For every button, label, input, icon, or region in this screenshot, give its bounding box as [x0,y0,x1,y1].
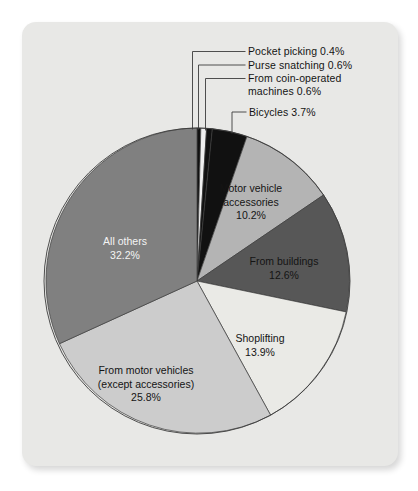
slice-label-line: 12.6% [222,269,346,283]
slice-label-line: Motor vehicle [188,182,314,196]
slice-label-line: All others [72,235,178,249]
callout-label-purse-snatching: Purse snatching 0.6% [248,59,352,72]
callout-label-coin-operated-line1: From coin-operated [248,72,341,85]
slice-label-from-motor-vehicles: From motor vehicles (except accessories)… [66,364,226,405]
slice-label-shoplifting: Shoplifting 13.9% [205,332,315,359]
slice-label-line: Shoplifting [205,332,315,346]
pie-chart: Pocket picking 0.4% Purse snatching 0.6%… [0,0,418,491]
leader-lines [193,52,247,134]
leader-line-bicycles [232,112,246,133]
callout-label-coin-operated-line2: machines 0.6% [248,85,321,98]
slice-label-all-others: All others 32.2% [72,235,178,262]
pie-chart-svg [0,0,418,491]
slice-label-line: From motor vehicles [66,364,226,378]
callout-label-bicycles: Bicycles 3.7% [249,106,316,119]
slice-label-line: 32.2% [72,249,178,263]
leader-line-coin-operated [206,79,246,131]
figure-stage: Pocket picking 0.4% Purse snatching 0.6%… [0,0,418,491]
slice-label-line: 13.9% [205,346,315,360]
slice-label-motor-vehicle-accessories: Motor vehicle accessories 10.2% [188,182,314,223]
slice-label-line: 25.8% [66,391,226,405]
leader-line-pocket-picking [193,52,246,130]
slice-label-line: accessories [188,196,314,210]
slice-label-line: 10.2% [188,209,314,223]
slice-label-line: From buildings [222,255,346,269]
slice-label-line: (except accessories) [66,378,226,392]
slice-label-from-buildings: From buildings 12.6% [222,255,346,282]
callout-label-pocket-picking: Pocket picking 0.4% [248,45,344,58]
